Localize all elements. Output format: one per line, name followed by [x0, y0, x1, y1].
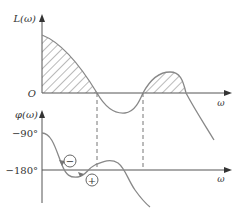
- tick-label-minus-90: −90°: [12, 128, 38, 139]
- positive-crossing-marker: +: [86, 174, 98, 186]
- y-axis-arrow-icon: [39, 110, 45, 118]
- bode-plot-svg: − + L(ω) O ω φ(ω) −90° −180° ω: [0, 0, 243, 221]
- y-axis-arrow-icon: [39, 14, 45, 22]
- phase-axis-label: φ(ω): [15, 109, 38, 120]
- svg-text:+: +: [88, 175, 96, 186]
- svg-text:−: −: [66, 156, 74, 167]
- tick-label-minus-180: −180°: [6, 165, 38, 176]
- negative-crossing-marker: −: [64, 155, 76, 167]
- top-frequency-label: ω: [217, 98, 225, 108]
- origin-label: O: [28, 88, 36, 99]
- x-axis-arrow-icon: [224, 167, 232, 173]
- bottom-frequency-label: ω: [217, 174, 225, 184]
- magnitude-axis-label: L(ω): [12, 13, 36, 24]
- x-axis-arrow-icon: [224, 90, 232, 96]
- hatched-area-positive-gain: [42, 35, 186, 93]
- bode-diagram: − + L(ω) O ω φ(ω) −90° −180° ω: [0, 0, 243, 221]
